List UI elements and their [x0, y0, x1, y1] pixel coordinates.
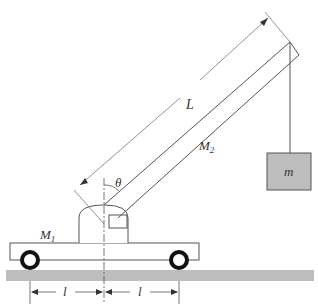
wheel-left — [22, 252, 38, 268]
label-M1: M1 — [39, 227, 55, 244]
label-l-left: l — [63, 284, 67, 299]
arrow — [171, 289, 178, 295]
l-dimensions — [30, 281, 179, 304]
L-dimension — [74, 12, 290, 224]
wheel-right — [171, 252, 187, 268]
L-arrow-top — [260, 18, 268, 26]
crane-cart-diagram: L θ M2 M1 m l l — [0, 0, 318, 304]
label-M2: M2 — [198, 138, 215, 155]
beam — [104, 42, 299, 218]
label-theta: θ — [115, 175, 122, 190]
cart-window — [109, 215, 127, 228]
label-l-right: l — [138, 284, 142, 299]
ground — [6, 270, 314, 281]
label-m: m — [284, 164, 293, 179]
label-L: L — [185, 97, 194, 112]
arrow — [31, 289, 38, 295]
arrow — [105, 289, 112, 295]
arrow — [96, 289, 103, 295]
